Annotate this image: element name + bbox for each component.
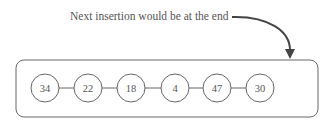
annotation-text: Next insertion would be at the end xyxy=(70,10,229,22)
node-value: 34 xyxy=(40,83,51,94)
list-node: 4 xyxy=(161,74,189,102)
arrowhead-icon xyxy=(285,49,295,59)
list-node: 30 xyxy=(246,74,274,102)
node-value: 18 xyxy=(126,83,137,94)
list-node: 22 xyxy=(74,74,102,102)
node-value: 4 xyxy=(172,83,178,94)
insertion-arrow-icon xyxy=(232,17,290,50)
list-node: 34 xyxy=(31,74,59,102)
list-node: 18 xyxy=(117,74,145,102)
node-value: 47 xyxy=(212,83,223,94)
node-value: 30 xyxy=(255,83,266,94)
list-node: 47 xyxy=(203,74,231,102)
linked-list-diagram: Next insertion would be at the end 34 22… xyxy=(0,0,335,124)
node-value: 22 xyxy=(83,83,94,94)
